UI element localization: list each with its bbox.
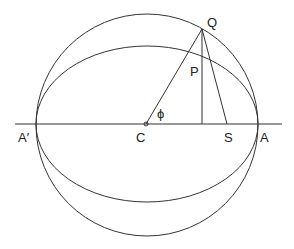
label-phi: ϕ (157, 106, 164, 121)
diagram: Q P ϕ A′ C S A (0, 0, 294, 249)
label-q: Q (207, 15, 217, 30)
label-p: P (190, 64, 199, 79)
label-s: S (224, 130, 233, 145)
label-a: A (260, 130, 269, 145)
auxiliary-circle (36, 14, 258, 236)
label-a-prime: A′ (18, 130, 30, 145)
line-qs (202, 29, 227, 124)
label-c: C (136, 130, 145, 145)
